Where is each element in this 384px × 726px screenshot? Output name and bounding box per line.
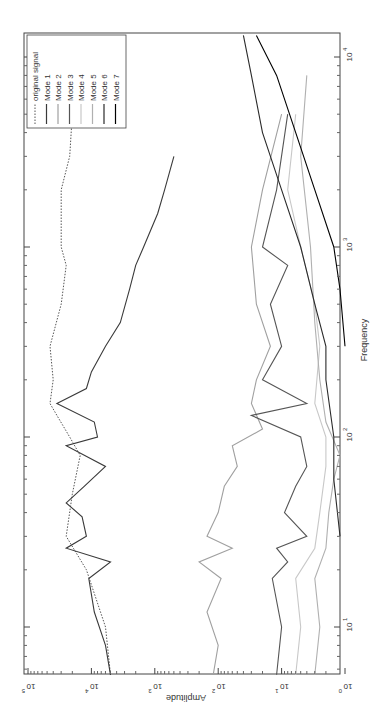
legend-label: Mode 6 [100,74,109,101]
svg-text:10: 10 [345,622,354,631]
frequency-tick-label: 103 [342,237,354,251]
legend-label: Mode 5 [89,74,98,101]
amplitude-tick-label: 104 [84,682,98,694]
legend-label: Mode 1 [43,74,52,101]
svg-text:0: 0 [338,688,342,694]
svg-text:5: 5 [21,688,25,694]
svg-text:Mode 6: Mode 6 [100,74,109,101]
svg-text:10: 10 [216,682,225,691]
svg-text:2: 2 [211,688,215,694]
svg-text:1: 1 [342,617,348,621]
amplitude-tick-label: 103 [148,682,162,694]
frequency-tick-label: 101 [342,617,354,631]
svg-text:3: 3 [342,237,348,241]
svg-text:Mode 2: Mode 2 [54,74,63,101]
amplitude-tick-label: 101 [275,682,289,694]
svg-text:10: 10 [343,682,352,691]
svg-text:original signal: original signal [31,52,40,101]
svg-text:4: 4 [342,47,348,51]
svg-text:10: 10 [280,682,289,691]
svg-text:Mode 4: Mode 4 [77,74,86,101]
svg-text:2: 2 [342,427,348,431]
amplitude-tick-label: 100 [338,682,352,694]
svg-text:10: 10 [345,432,354,441]
frequency-tick-label: 102 [342,427,354,441]
svg-text:3: 3 [148,688,152,694]
chart: 100101102103104105101102103104 original … [0,0,384,726]
legend-label: Mode 4 [77,74,86,101]
amplitude-frequency-plot: 100101102103104105101102103104 original … [0,0,384,726]
amplitude-tick-label: 105 [21,682,35,694]
svg-text:Mode 7: Mode 7 [112,74,121,101]
svg-text:Mode 5: Mode 5 [89,74,98,101]
y-axis-label: Amplitude [166,693,206,703]
svg-text:10: 10 [345,52,354,61]
svg-text:Mode 3: Mode 3 [66,74,75,101]
legend-label: Mode 2 [54,74,63,101]
svg-text:10: 10 [345,242,354,251]
svg-text:10: 10 [89,682,98,691]
svg-text:1: 1 [275,688,279,694]
svg-text:10: 10 [153,682,162,691]
legend: original signalMode 1Mode 2Mode 3Mode 4M… [27,35,126,128]
legend-label: Mode 3 [66,74,75,101]
svg-text:10: 10 [26,682,35,691]
amplitude-tick-label: 102 [211,682,225,694]
frequency-tick-label: 104 [342,47,354,61]
svg-text:4: 4 [84,688,88,694]
legend-label: Mode 7 [112,74,121,101]
legend-label: original signal [31,52,40,101]
x-axis-label: Frequency [359,318,369,361]
svg-text:Mode 1: Mode 1 [43,74,52,101]
